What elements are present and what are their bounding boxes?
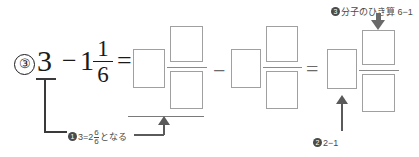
fraction-bar-group1 bbox=[167, 67, 207, 68]
callout-2-leader-stem bbox=[341, 103, 343, 131]
fraction-bar-group3 bbox=[359, 70, 399, 71]
callout-3-marker: 3 bbox=[331, 7, 340, 16]
minuend-underline bbox=[36, 78, 56, 80]
problem-number: ③ bbox=[14, 54, 35, 75]
answer-box-group2-denominator[interactable] bbox=[266, 71, 298, 109]
answer-box-group1-numerator[interactable] bbox=[170, 26, 203, 62]
answer-box-group3-denominator[interactable] bbox=[362, 74, 395, 112]
callout-3: 3分子のひき算 6−1 bbox=[331, 1, 413, 19]
minuend-leader-horizontal bbox=[44, 131, 67, 133]
callout-2: 22−1 bbox=[313, 132, 338, 150]
callout-1-text-before: 3=2 bbox=[78, 132, 93, 142]
minuend-leader-vertical bbox=[44, 78, 46, 133]
callout-1-fraction-numerator: 6 bbox=[94, 129, 98, 137]
callout-2-marker: 2 bbox=[313, 138, 322, 147]
callout-2-text: 2−1 bbox=[323, 138, 338, 148]
callout-1: 13=266となる bbox=[68, 126, 127, 146]
callout-1-marker: 1 bbox=[68, 132, 77, 141]
worksheet-canvas: ③ 3 − 1 1 6 = − = 13=266となる 22−1 3分子のひき算… bbox=[0, 0, 419, 157]
subtrahend-fraction: 1 6 bbox=[92, 37, 114, 86]
callout-1-leader-line bbox=[134, 134, 164, 136]
minus-operator: − bbox=[62, 46, 77, 76]
minus-operator-between-groups: − bbox=[213, 60, 225, 82]
answer-box-group2-numerator[interactable] bbox=[266, 26, 298, 62]
answer-box-group1-denominator[interactable] bbox=[170, 71, 203, 109]
answer-box-group2-whole[interactable] bbox=[231, 49, 261, 88]
callout-1-fraction-denominator: 6 bbox=[94, 138, 98, 146]
callout-1-fraction: 66 bbox=[94, 129, 98, 146]
callout-1-leader-stem bbox=[163, 124, 165, 135]
minuend-whole-number: 3 bbox=[37, 45, 52, 77]
callout-3-arrow-down-icon bbox=[371, 20, 385, 30]
subtrahend-fraction-numerator: 1 bbox=[92, 37, 114, 60]
equals-operator-1: = bbox=[117, 46, 132, 76]
answer-box-group3-numerator[interactable] bbox=[362, 30, 395, 65]
subtrahend-fraction-denominator: 6 bbox=[92, 63, 114, 86]
equals-operator-2: = bbox=[306, 58, 318, 80]
callout-1-text-after: となる bbox=[100, 132, 127, 142]
callout-2-arrow-up-icon bbox=[336, 95, 348, 104]
fraction-bar-group2 bbox=[263, 67, 302, 68]
callout-1-arrow-up-icon bbox=[158, 116, 170, 125]
answer-box-group1-whole[interactable] bbox=[133, 49, 165, 88]
answer-box-group3-whole[interactable] bbox=[327, 49, 357, 89]
